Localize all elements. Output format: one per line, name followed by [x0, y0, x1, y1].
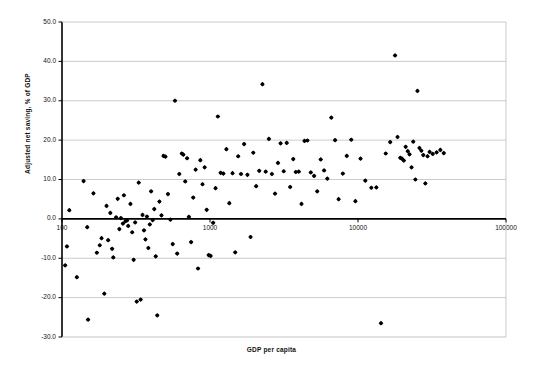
- data-points: [63, 53, 446, 325]
- scatter-chart: Adjusted net saving, % of GDP GDP per ca…: [0, 0, 543, 368]
- gridlines: [62, 61, 506, 297]
- plot-area: [0, 0, 543, 368]
